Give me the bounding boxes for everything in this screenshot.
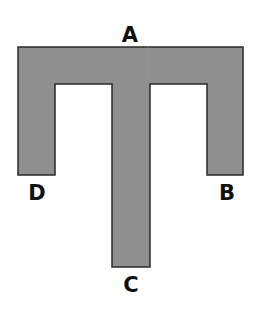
label-a: A <box>122 23 139 47</box>
t-shape <box>18 47 243 267</box>
label-d: D <box>28 181 45 205</box>
label-b: B <box>219 181 235 205</box>
t-shape-diagram: A B C D <box>0 0 259 313</box>
label-c: C <box>123 273 138 297</box>
